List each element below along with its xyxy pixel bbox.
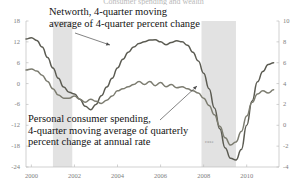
annotation-networth-line1: Networth, 4-quarter moving — [49, 6, 200, 18]
annotation-spending-line3: percent change at annual rate — [28, 136, 188, 148]
y-axis-left-tick: -18 — [4, 142, 20, 149]
annotation-networth-line2: average of 4-quarter percent change — [49, 18, 200, 30]
x-axis-tick: 2006 — [148, 172, 174, 179]
y-axis-right-tick: 4 — [283, 80, 299, 87]
chart-container: Consumer spending and wealth Networth, 4… — [0, 0, 307, 190]
y-axis-left-tick: 12 — [4, 38, 20, 45]
y-axis-right-tick: 10 — [283, 17, 299, 24]
x-axis-tick: 2004 — [105, 172, 131, 179]
y-axis-left-tick: 18 — [4, 17, 20, 24]
annotation-networth: Networth, 4-quarter moving average of 4-… — [49, 6, 200, 29]
y-axis-right-tick: 2 — [283, 100, 299, 107]
y-axis-right-tick: 0 — [283, 121, 299, 128]
y-axis-right-tick: 8 — [283, 38, 299, 45]
y-axis-left-tick: 6 — [4, 59, 20, 66]
y-axis-left-tick: 0 — [4, 80, 20, 87]
y-axis-right-tick: -4 — [283, 163, 299, 170]
x-axis-tick: 2008 — [191, 172, 217, 179]
y-axis-left-tick: -24 — [4, 163, 20, 170]
inline-case-label: case — [205, 139, 214, 144]
y-axis-left-tick: -12 — [4, 121, 20, 128]
x-axis-tick: 2000 — [18, 172, 44, 179]
y-axis-right-tick: -2 — [283, 142, 299, 149]
x-axis-tick: 2002 — [61, 172, 87, 179]
annotation-spending: Personal consumer spending, 4-quarter mo… — [28, 113, 188, 148]
y-axis-left-tick: -6 — [4, 100, 20, 107]
annotation-spending-line1: Personal consumer spending, — [28, 113, 188, 125]
x-axis-tick: 2010 — [234, 172, 260, 179]
y-axis-right-tick: 6 — [283, 59, 299, 66]
annotation-spending-line2: 4-quarter moving average of quarterly — [28, 125, 188, 137]
